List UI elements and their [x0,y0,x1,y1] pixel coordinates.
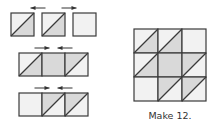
assembly-row [19,86,88,116]
block-square [182,77,206,101]
patch-square [42,13,65,36]
square-fill [73,13,96,36]
row-assembly [11,6,96,116]
square-fill [134,77,158,101]
make-count-caption: Make 12. [134,110,206,121]
block-square [134,29,158,53]
patch-square [42,53,65,76]
arrow-left-icon [58,86,73,90]
finished-block [134,29,206,101]
block-square [182,53,206,77]
block-square [134,77,158,101]
patch-square [65,53,88,76]
block-square [134,53,158,77]
arrow-right-icon [35,46,50,50]
arrow-left-icon [31,6,46,10]
patch-square [19,53,42,76]
assembly-row [19,46,88,76]
patch-square [11,13,34,36]
arrow-right-icon [62,6,77,10]
square-fill [182,29,206,53]
block-square [158,29,182,53]
square-fill [19,93,42,116]
block-square [158,53,182,77]
patch-square [42,93,65,116]
assembly-row [11,6,96,36]
patch-square [19,93,42,116]
arrow-right-icon [35,86,50,90]
block-square [158,77,182,101]
square-fill [158,53,182,77]
block-square [182,29,206,53]
patch-square [65,93,88,116]
arrow-left-icon [58,46,73,50]
patch-square [73,13,96,36]
square-fill [42,53,65,76]
